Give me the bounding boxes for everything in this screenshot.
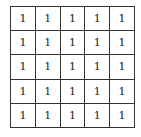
grid-cell: 1 xyxy=(35,31,60,55)
grid-cell: 1 xyxy=(110,31,135,55)
grid-cell: 1 xyxy=(60,103,85,127)
grid-cell: 1 xyxy=(11,103,36,127)
grid-cell: 1 xyxy=(110,55,135,79)
grid-cell: 1 xyxy=(85,31,110,55)
number-grid: 1111111111111111111111111 xyxy=(10,6,135,128)
grid-cell: 1 xyxy=(35,55,60,79)
grid-cell: 1 xyxy=(110,103,135,127)
grid-cell: 1 xyxy=(11,31,36,55)
grid-cell: 1 xyxy=(85,7,110,31)
grid-row: 11111 xyxy=(11,31,135,55)
grid-cell: 1 xyxy=(60,7,85,31)
grid-cell: 1 xyxy=(35,7,60,31)
grid-cell: 1 xyxy=(85,103,110,127)
grid-cell: 1 xyxy=(85,55,110,79)
grid-cell: 1 xyxy=(11,55,36,79)
grid-row: 11111 xyxy=(11,103,135,127)
grid-cell: 1 xyxy=(35,79,60,103)
grid-cell: 1 xyxy=(35,103,60,127)
grid-cell: 1 xyxy=(110,79,135,103)
grid-cell: 1 xyxy=(110,7,135,31)
grid-cell: 1 xyxy=(60,55,85,79)
grid-cell: 1 xyxy=(60,79,85,103)
grid-cell: 1 xyxy=(85,79,110,103)
grid-cell: 1 xyxy=(11,79,36,103)
grid-cell: 1 xyxy=(11,7,36,31)
grid-row: 11111 xyxy=(11,79,135,103)
grid-row: 11111 xyxy=(11,55,135,79)
grid-row: 11111 xyxy=(11,7,135,31)
grid-cell: 1 xyxy=(60,31,85,55)
